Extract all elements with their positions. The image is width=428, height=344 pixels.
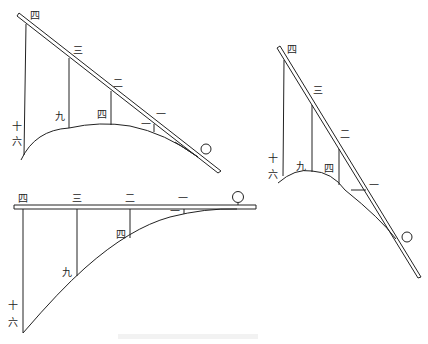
curve-label-9: 九 bbox=[55, 111, 65, 122]
faded-caption bbox=[118, 334, 258, 339]
rod bbox=[17, 13, 221, 173]
figure-canvas: 四 三 二 一 十 六 九 四 一 四 三 二 一 十 六 九 四 四 三 二 … bbox=[0, 0, 428, 344]
curve-label-9: 九 bbox=[296, 161, 306, 172]
curve-label-16b: 六 bbox=[268, 169, 278, 180]
curve-label-16: 十 bbox=[268, 152, 278, 164]
curve-label-16b: 六 bbox=[8, 317, 18, 328]
curve-label-1: 一 bbox=[141, 119, 151, 130]
rod-label-1: 一 bbox=[178, 193, 188, 204]
rod-label-2: 二 bbox=[125, 193, 135, 204]
curve bbox=[21, 124, 198, 160]
origin-circle bbox=[402, 232, 412, 242]
rod bbox=[14, 205, 256, 209]
curve-label-16b: 六 bbox=[12, 136, 22, 147]
curve-label-4: 四 bbox=[97, 109, 107, 120]
rod-label-2: 二 bbox=[340, 129, 350, 140]
vertical-line-4 bbox=[283, 60, 284, 176]
rod-label-1: 一 bbox=[156, 109, 166, 120]
curve-label-4: 四 bbox=[324, 163, 334, 174]
diagram-incline-left bbox=[17, 13, 221, 173]
vertical-line-4 bbox=[24, 24, 26, 155]
rod-label-4: 四 bbox=[287, 44, 297, 55]
curve-label-9: 九 bbox=[62, 267, 72, 278]
diagram-horizontal bbox=[14, 192, 256, 334]
rod-label-3: 三 bbox=[72, 193, 82, 204]
curve-label-16: 十 bbox=[12, 120, 22, 132]
labels-horizontal: 四 三 二 一 十 六 九 四 一 bbox=[8, 193, 188, 328]
rod-label-4: 四 bbox=[18, 193, 28, 204]
origin-circle bbox=[233, 192, 244, 203]
rod-label-1: 一 bbox=[369, 180, 379, 191]
rod-label-3: 三 bbox=[313, 85, 323, 96]
rod-label-2: 二 bbox=[113, 78, 123, 89]
rod-label-4: 四 bbox=[30, 10, 40, 21]
curve-label-1: 一 bbox=[170, 206, 180, 217]
curve-label-4: 四 bbox=[116, 229, 126, 240]
curve-label-16: 十 bbox=[8, 299, 18, 311]
rod-label-3: 三 bbox=[73, 45, 83, 56]
origin-circle bbox=[201, 144, 211, 154]
